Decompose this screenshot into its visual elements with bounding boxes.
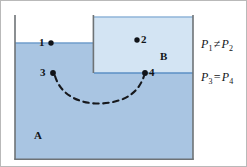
point-dot-3 <box>50 70 56 76</box>
point-dot-1 <box>48 40 53 45</box>
point-label-3: 3 <box>40 66 46 78</box>
equation-p3-eq-p4: P3=P4 <box>201 70 233 86</box>
eq2-lhs-symbol: P <box>201 70 209 84</box>
figure-canvas: 1 2 3 4 A B P1≠P2 P3=P4 <box>0 0 247 167</box>
eq1-rhs-symbol: P <box>222 37 230 51</box>
point-dot-2 <box>134 37 139 42</box>
eq1-lhs-symbol: P <box>201 37 209 51</box>
eq2-rhs-subscript: 4 <box>229 77 233 86</box>
point-label-1: 1 <box>39 36 45 48</box>
chamber-label-b: B <box>160 50 167 62</box>
fluid-b-body <box>94 17 193 73</box>
chamber-label-a: A <box>34 129 42 141</box>
eq1-operator: ≠ <box>213 37 222 51</box>
point-dot-4 <box>142 70 148 76</box>
eq2-operator: = <box>213 70 222 84</box>
point-label-4: 4 <box>149 66 155 78</box>
eq1-rhs-subscript: 2 <box>229 44 233 53</box>
point-label-2: 2 <box>141 33 147 45</box>
equation-p1-ne-p2: P1≠P2 <box>201 37 233 53</box>
